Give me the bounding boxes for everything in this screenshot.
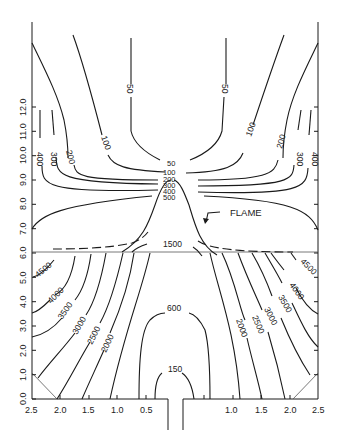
label-3000-left: 3000: [70, 314, 88, 336]
label-4500-right: 4500: [299, 256, 320, 277]
label-1500: 1500: [163, 239, 182, 249]
contour-3500-right-top: [265, 253, 282, 283]
contour-100-right-top: [253, 35, 284, 125]
flame-arrow-icon: [203, 218, 209, 224]
y-tick-7: 7.0: [18, 222, 28, 235]
contour-diagram: 0.0 1.0 2.0 3.0 4.0 5.0 6.0 7.0 8.0 9.0 …: [0, 0, 344, 447]
contour-3000-right: [281, 318, 310, 375]
y-tick-11: 11.0: [18, 123, 28, 140]
contour-1500-left: [132, 244, 147, 252]
contour-600-right: [189, 313, 210, 399]
x-tick-right-1.0: 1.0: [225, 405, 238, 415]
contour-600-left: [139, 313, 165, 399]
label-3500-left: 3500: [55, 300, 74, 321]
contour-200-left-top: [52, 110, 54, 135]
contour-3000-left: [38, 333, 75, 378]
y-tick-8: 8.0: [18, 197, 28, 210]
label-4000-right: 4000: [287, 280, 306, 301]
label-200-left: 200: [64, 149, 77, 166]
contour-400-right-top: [309, 110, 311, 135]
label-3000-right: 3000: [262, 305, 280, 327]
x-tick-left-1.0: 1.0: [111, 405, 124, 415]
corner-chamfer-right: [293, 373, 318, 399]
contour-150-right: [182, 373, 194, 399]
y-tick-labels: 0.0 1.0 2.0 3.0 4.0 5.0 6.0 7.0 8.0 9.0 …: [18, 98, 28, 405]
y-tick-9: 9.0: [18, 173, 28, 186]
contour-100-left-top: [73, 35, 102, 135]
contour-100-right: [186, 153, 243, 173]
x-tick-left-2.5: 2.5: [25, 405, 38, 415]
label-300-left: 300: [49, 152, 59, 166]
contour-200-right: [198, 160, 278, 180]
y-tick-3: 3.0: [18, 319, 28, 332]
y-ticks-left: [32, 107, 36, 399]
label-100-right: 100: [243, 121, 257, 138]
y-tick-6: 6.0: [18, 246, 28, 259]
x-tick-left-0.5: 0.5: [140, 405, 153, 415]
label-150: 150: [168, 364, 182, 374]
label-2500-right: 2500: [250, 314, 267, 336]
flame-dashed-right: [198, 241, 293, 252]
y-tick-5: 5.0: [18, 271, 28, 284]
y-tick-4: 4.0: [18, 295, 28, 308]
label-400-right: 400: [310, 152, 320, 166]
y-tick-12: 12.0: [18, 98, 28, 116]
contour-200-right-top: [298, 110, 301, 130]
y-ticks-right: [314, 107, 318, 375]
label-400-left: 400: [35, 152, 45, 166]
contour-2000-left: [82, 350, 104, 399]
y-tick-0: 0.0: [18, 392, 28, 405]
label-2000-right: 2000: [234, 317, 250, 338]
contour-3500-right: [292, 303, 318, 347]
flame-label: FLAME: [230, 207, 262, 218]
label-100-left: 100: [99, 134, 113, 151]
label-50-right: 50: [220, 84, 230, 94]
contour-500-left: [32, 196, 152, 229]
x-ticks: [60, 395, 290, 399]
contour-4500-right: [291, 253, 296, 260]
x-tick-right-1.5: 1.5: [255, 405, 268, 415]
contour-150-left: [155, 373, 162, 399]
contour-labels: 50 50 100 100 200 200 300 300 400 400 50…: [33, 84, 320, 374]
label-200-right: 200: [274, 133, 287, 150]
contour-50-right: [190, 97, 224, 160]
y-tick-10: 10.0: [18, 146, 28, 164]
x-tick-left-1.5: 1.5: [82, 405, 95, 415]
y-tick-1: 1.0: [18, 368, 28, 381]
flame-dashed-left: [53, 232, 148, 249]
contour-3000-left-top: [86, 253, 106, 315]
label-3500-right: 3500: [276, 293, 294, 315]
x-tick-right-2.5: 2.5: [312, 405, 325, 415]
label-center-500: 500: [163, 193, 176, 202]
contour-3500-left-top: [75, 254, 91, 300]
label-2500-left: 2500: [85, 324, 103, 346]
label-300-right: 300: [295, 152, 305, 166]
contour-1500-right-lower: [210, 253, 240, 399]
x-tick-right-2.0: 2.0: [284, 405, 297, 415]
flame-pointer: [206, 212, 220, 222]
label-center-50: 50: [167, 159, 175, 168]
contour-2500-left: [57, 342, 90, 399]
contour-300-right: [198, 165, 294, 186]
contour-2000-right: [247, 338, 262, 399]
contour-200-left: [74, 165, 158, 180]
contour-1500-right: [193, 247, 202, 256]
y-tick-2: 2.0: [18, 344, 28, 357]
contour-50-left: [131, 97, 160, 160]
contour-3500-left: [32, 318, 62, 337]
x-tick-labels: 2.5 2.0 1.5 1.0 0.5 1.0 1.5 2.0 2.5: [25, 405, 325, 415]
label-4500-left: 4500: [33, 260, 54, 280]
x-tick-left-2.0: 2.0: [54, 405, 67, 415]
contour-2500-right: [268, 332, 285, 399]
corner-chamfer-left: [32, 373, 57, 399]
contour-upper-right-outer: [283, 43, 318, 158]
contour-2500-right-top: [238, 253, 262, 310]
contour-upper-left-outer: [32, 43, 68, 158]
label-50-left: 50: [125, 84, 135, 94]
label-600: 600: [167, 303, 181, 313]
label-2000-left: 2000: [99, 332, 116, 354]
